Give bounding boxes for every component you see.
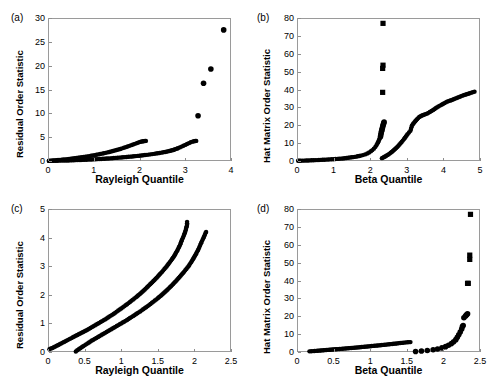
panel-d-ylabel: Hat Matrix Order Statistic [261, 240, 272, 354]
y-tick-mark [49, 352, 52, 353]
y-tick-mark [49, 323, 52, 324]
data-point [185, 220, 189, 224]
x-tick-mark [231, 349, 232, 352]
data-point [472, 89, 476, 93]
panel-b: (b) 012345 01020304050607080 Beta Quanti… [249, 0, 498, 191]
y-tick-mark [298, 209, 301, 210]
data-point [208, 66, 214, 72]
data-point [380, 63, 385, 68]
data-point [460, 323, 466, 329]
panel-b-ylabel: Hat Matrix Order Statistic [261, 49, 272, 163]
x-tick-mark [443, 158, 444, 161]
panel-c-ylabel: Residual Order Statistic [14, 241, 25, 349]
y-tick-label: 80 [270, 13, 294, 23]
y-tick-mark [298, 143, 301, 144]
panel-d-xlabel: Beta Quantile [297, 364, 480, 376]
x-tick-mark [407, 158, 408, 161]
y-tick-mark [49, 266, 52, 267]
x-tick-mark [121, 349, 122, 352]
data-point [204, 230, 208, 234]
data-point [195, 113, 201, 119]
y-tick-mark [298, 72, 301, 73]
y-tick-mark [298, 36, 301, 37]
data-point [465, 311, 471, 317]
panel-a-ylabel: Residual Order Statistic [14, 50, 25, 158]
panel-b-xlabel: Beta Quantile [297, 173, 480, 185]
data-point [380, 90, 385, 95]
data-point [413, 349, 419, 355]
y-tick-mark [49, 66, 52, 67]
x-tick-mark [231, 158, 232, 161]
y-tick-mark [298, 263, 301, 264]
x-tick-mark [185, 158, 186, 161]
y-tick-label: 70 [270, 31, 294, 41]
y-tick-label: 50 [270, 258, 294, 268]
y-tick-mark [298, 245, 301, 246]
panel-d: (d) 00.511.522.5 01020304050607080 Beta … [249, 191, 498, 382]
data-point [419, 348, 425, 354]
y-tick-label: 60 [270, 240, 294, 250]
panel-a-xlabel: Rayleigh Quantile [48, 173, 231, 185]
y-tick-mark [49, 18, 52, 19]
y-tick-label: 20 [270, 311, 294, 321]
data-point [380, 21, 385, 26]
y-tick-label: 30 [21, 13, 45, 23]
x-tick-mark [158, 349, 159, 352]
data-point [408, 340, 412, 344]
x-tick-mark [334, 158, 335, 161]
panel-c: (c) 00.511.522.5 012345 Rayleigh Quantil… [0, 191, 249, 382]
y-tick-mark [49, 42, 52, 43]
y-tick-mark [298, 281, 301, 282]
y-tick-label: 10 [270, 138, 294, 148]
x-tick-mark [407, 349, 408, 352]
x-tick-mark [480, 349, 481, 352]
x-tick-mark [480, 158, 481, 161]
x-tick-mark [370, 349, 371, 352]
y-tick-label: 30 [270, 102, 294, 112]
panel-a: (a) 01234 051015202530 Rayleigh Quantile… [0, 0, 249, 191]
y-tick-label: 40 [270, 85, 294, 95]
y-tick-label: 40 [270, 276, 294, 286]
data-point [467, 253, 472, 258]
y-tick-mark [298, 107, 301, 108]
x-tick-mark [194, 349, 195, 352]
x-tick-mark [85, 349, 86, 352]
data-point [144, 139, 148, 143]
y-tick-label: 60 [270, 49, 294, 59]
y-tick-label: 30 [270, 293, 294, 303]
y-tick-mark [298, 298, 301, 299]
data-point [194, 139, 198, 143]
figure-container: (a) 01234 051015202530 Rayleigh Quantile… [0, 0, 498, 382]
y-tick-label: 10 [270, 329, 294, 339]
y-tick-mark [298, 227, 301, 228]
x-tick-mark [94, 158, 95, 161]
y-tick-label: 25 [21, 37, 45, 47]
y-tick-mark [49, 295, 52, 296]
y-tick-mark [298, 352, 301, 353]
y-tick-label: 5 [21, 204, 45, 214]
y-tick-mark [298, 54, 301, 55]
data-point [221, 27, 227, 33]
data-point [381, 119, 387, 125]
y-tick-mark [49, 209, 52, 210]
data-point [466, 281, 471, 286]
y-tick-mark [298, 18, 301, 19]
y-tick-mark [49, 113, 52, 114]
y-tick-label: 20 [270, 120, 294, 130]
y-tick-mark [298, 125, 301, 126]
y-tick-mark [49, 161, 52, 162]
data-point [201, 81, 207, 87]
y-tick-mark [298, 161, 301, 162]
y-tick-mark [49, 137, 52, 138]
x-tick-mark [370, 158, 371, 161]
y-tick-mark [298, 90, 301, 91]
y-tick-mark [298, 316, 301, 317]
y-tick-mark [49, 90, 52, 91]
data-point [424, 348, 430, 354]
y-tick-mark [298, 334, 301, 335]
data-point [468, 212, 473, 217]
y-tick-label: 50 [270, 67, 294, 77]
panel-c-xlabel: Rayleigh Quantile [48, 364, 231, 376]
y-tick-label: 0 [270, 347, 294, 357]
y-tick-label: 70 [270, 222, 294, 232]
